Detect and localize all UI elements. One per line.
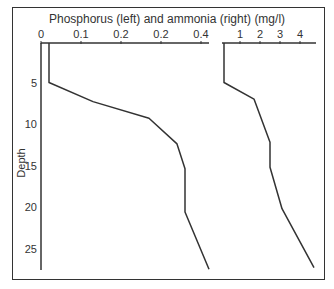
phosphorus-tick-label: 0.2 bbox=[153, 28, 168, 40]
phosphorus-tick-label: 0.2 bbox=[113, 28, 128, 40]
phosphorus-tick-label: 0.1 bbox=[73, 28, 88, 40]
ammonia-profile-line bbox=[224, 43, 314, 268]
ammonia-tick-label: 2 bbox=[257, 28, 263, 40]
ammonia-tick-label: 1 bbox=[237, 28, 243, 40]
ammonia-tick-label: 3 bbox=[277, 28, 283, 40]
ammonia-tick-label: 4 bbox=[297, 28, 303, 40]
depth-tick-label: 25 bbox=[25, 243, 37, 255]
phosphorus-tick-label: 0 bbox=[38, 28, 44, 40]
depth-tick-label: 20 bbox=[25, 201, 37, 213]
phosphorus-tick-label: 0.4 bbox=[193, 28, 208, 40]
depth-axis-label: Depth bbox=[15, 148, 27, 177]
chart-plot-area: 510152025Depth00.10.20.20.41234 bbox=[0, 0, 334, 289]
depth-tick-label: 10 bbox=[25, 118, 37, 130]
depth-tick-label: 5 bbox=[31, 77, 37, 89]
phosphorus-profile-line bbox=[49, 43, 209, 269]
